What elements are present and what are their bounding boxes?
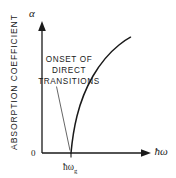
y-axis-symbol: α: [29, 7, 35, 19]
absorption-coefficient-figure: α ħω 0 ħωg ABSORPTION COEFFICIENT ONSET …: [0, 0, 176, 178]
x-axis-arrowhead: [141, 149, 151, 157]
annotation-line-3: TRANSITIONS: [38, 77, 100, 86]
origin-label: 0: [31, 148, 36, 158]
x-tick-label-subscript: g: [74, 167, 78, 174]
x-axis-symbol: ħω: [155, 145, 169, 157]
x-axis-symbol-omega: ω: [160, 145, 168, 157]
annotation-line-1: ONSET OF: [46, 55, 93, 64]
y-axis-arrowhead: [38, 21, 46, 31]
annotation-line-2: DIRECT: [52, 66, 86, 75]
annotation-leader-line: [57, 87, 71, 151]
x-tick-label-hwg: ħωg: [63, 162, 78, 174]
y-axis-title: ABSORPTION COEFFICIENT: [9, 14, 19, 150]
plot-canvas: α ħω 0 ħωg ABSORPTION COEFFICIENT ONSET …: [0, 0, 176, 178]
